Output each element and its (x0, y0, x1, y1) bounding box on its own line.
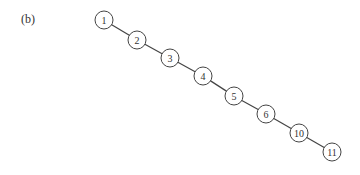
tree-node-1: 1 (95, 11, 113, 29)
tree-node-10: 10 (290, 124, 308, 142)
node-label: 1 (102, 15, 107, 26)
degenerate-tree-diagram: 1234561011 (0, 0, 360, 175)
tree-edge (145, 44, 162, 53)
tree-node-4: 4 (194, 67, 212, 85)
tree-edge (112, 25, 130, 36)
node-label: 11 (327, 147, 337, 158)
node-label: 2 (135, 35, 140, 46)
node-label: 5 (232, 91, 237, 102)
tree-node-5: 5 (225, 87, 243, 105)
tree-edge (307, 137, 324, 147)
tree-node-11: 11 (323, 143, 341, 161)
tree-edge (242, 100, 258, 109)
tree-node-3: 3 (161, 49, 179, 67)
tree-edge (274, 118, 291, 128)
tree-node-2: 2 (128, 31, 146, 49)
node-label: 3 (168, 53, 173, 64)
node-label: 6 (264, 109, 269, 120)
tree-edge (178, 62, 195, 71)
tree-node-6: 6 (257, 105, 275, 123)
tree-edge (211, 81, 227, 91)
node-label: 4 (201, 71, 206, 82)
node-label: 10 (294, 128, 304, 139)
